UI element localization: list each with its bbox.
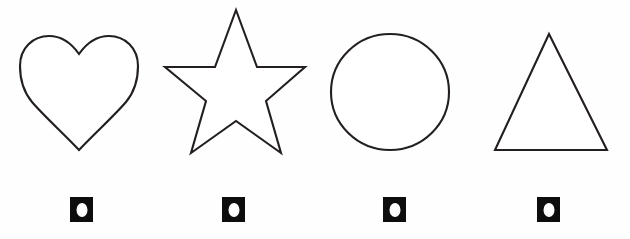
marker-dot-icon [228, 203, 239, 217]
marker-heart[interactable] [70, 197, 93, 222]
shape-cell-star [157, 0, 314, 239]
circle-outline-icon [314, 0, 471, 170]
heart-outline-icon [0, 0, 157, 170]
marker-star[interactable] [222, 197, 245, 222]
shape-cell-triangle [471, 0, 628, 239]
marker-dot-icon [76, 203, 87, 217]
shape-cell-heart [0, 0, 157, 239]
triangle-outline-icon [471, 0, 628, 170]
marker-dot-icon [543, 203, 554, 217]
marker-circle[interactable] [383, 197, 406, 222]
star-outline-icon [157, 0, 314, 170]
shape-cell-circle [314, 0, 471, 239]
marker-dot-icon [389, 203, 400, 217]
marker-triangle[interactable] [537, 197, 560, 222]
shapes-worksheet [0, 0, 630, 239]
